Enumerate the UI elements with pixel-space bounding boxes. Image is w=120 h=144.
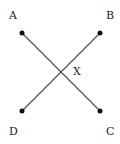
point-b-dot	[98, 31, 103, 36]
point-a-dot	[20, 31, 25, 36]
point-d-dot	[20, 109, 25, 114]
label-c: C	[106, 125, 114, 138]
point-c-dot	[98, 109, 103, 114]
label-x: X	[73, 65, 81, 78]
label-b: B	[106, 9, 114, 22]
label-a: A	[8, 9, 18, 22]
label-d: D	[9, 125, 18, 138]
cross-diagram: A B C D X	[0, 0, 120, 144]
